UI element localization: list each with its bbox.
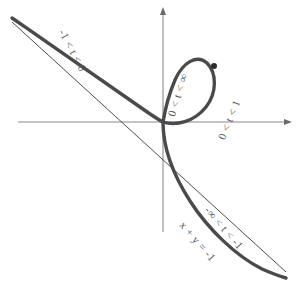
curve-branch-upper-left <box>12 18 163 122</box>
x-axis-arrowhead-icon <box>284 119 292 125</box>
y-axis-arrowhead-icon <box>160 7 166 15</box>
plot-canvas <box>0 0 300 285</box>
horizontal-axis <box>18 119 292 125</box>
asymptote-line <box>12 22 286 272</box>
folium-of-descartes-figure: -1 < t < 0 0 < t < ∞ 0 < t < 1 -∞ < t < … <box>0 0 300 285</box>
loop-apex-point-marker <box>211 63 217 69</box>
